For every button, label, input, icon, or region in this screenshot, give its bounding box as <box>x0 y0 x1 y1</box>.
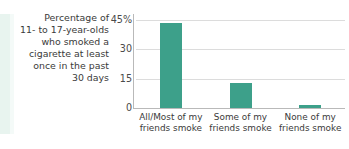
x-axis-category-labels: All/Most of myfriends smokeSome of myfri… <box>136 112 345 146</box>
y-axis-line <box>133 14 134 109</box>
caption-line: who smoked a <box>6 36 109 48</box>
x-axis-line <box>133 108 345 109</box>
y-axis-tick-label: 45% <box>102 14 132 25</box>
y-axis-tick-labels: 0153045% <box>100 0 132 149</box>
x-axis-category-label-line: None of my <box>275 112 345 123</box>
x-axis-category-label: Some of myfriends smoke <box>206 112 276 135</box>
x-axis-category-label-line: friends smoke <box>136 123 206 134</box>
caption-line: Percentage of <box>6 12 109 24</box>
y-axis-tick-label: 30 <box>102 43 132 54</box>
y-axis-tick-label: 0 <box>102 102 132 113</box>
gridline <box>136 20 345 21</box>
x-axis-category-label-line: Some of my <box>206 112 276 123</box>
bar <box>230 83 252 108</box>
x-axis-category-label-line: friends smoke <box>206 123 276 134</box>
x-axis-category-label-line: All/Most of my <box>136 112 206 123</box>
bar <box>160 23 182 108</box>
caption-line: cigarette at least <box>6 48 109 60</box>
y-axis-tick-label: 15 <box>102 73 132 84</box>
plot-area <box>136 20 345 109</box>
caption-line: once in the past <box>6 60 109 72</box>
caption-line: 11- to 17-year-olds <box>6 24 109 36</box>
x-axis-category-label: None of myfriends smoke <box>275 112 345 135</box>
chart-screenshot: Percentage of 11- to 17-year-olds who sm… <box>0 0 349 149</box>
chart-caption: Percentage of 11- to 17-year-olds who sm… <box>6 12 109 85</box>
x-axis-category-label: All/Most of myfriends smoke <box>136 112 206 135</box>
caption-line: 30 days <box>6 72 109 84</box>
x-axis-category-label-line: friends smoke <box>275 123 345 134</box>
